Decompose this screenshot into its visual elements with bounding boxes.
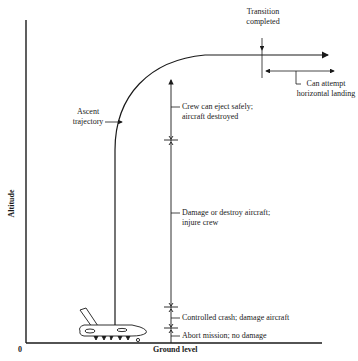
- ascent-label: Ascent trajectory: [70, 107, 106, 127]
- zone-label-damage-destroy: Damage or destroy aircraft; injure crew: [182, 208, 270, 228]
- zone-label-controlled-crash: Controlled crash; damage aircraft: [182, 313, 289, 323]
- zone-label-eject: Crew can eject safely; aircraft destroye…: [182, 102, 253, 122]
- y-axis-label: Altitude: [7, 188, 16, 218]
- space-shuttle-icon: [80, 308, 147, 342]
- origin-label: 0: [18, 345, 22, 355]
- x-axis-label: Ground level: [153, 345, 198, 355]
- diagram-canvas: [0, 0, 358, 361]
- zone-label-abort: Abort mission; no damage: [182, 331, 267, 341]
- transition-label: Transition completed: [240, 7, 286, 27]
- landing-label: Can attempt horizontal landing: [294, 79, 358, 99]
